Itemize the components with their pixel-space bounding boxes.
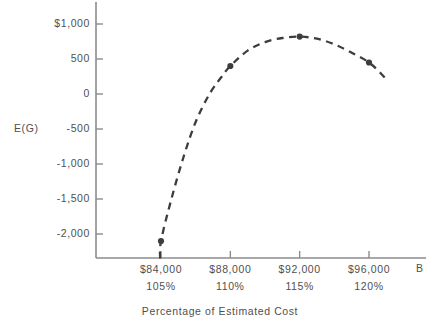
data-curve [160,37,388,259]
data-point-marker [227,63,233,69]
x-axis-title: Percentage of Estimated Cost [0,305,440,317]
axes [96,2,426,258]
x-axis-tick-label-percent: 120% [324,280,414,292]
y-axis-tick-label: $1,000 [20,17,90,29]
y-axis-tick-label: -1,500 [20,192,90,204]
x-axis-end-symbol: B [416,262,424,274]
x-axis-tick-label-amount: $96,000 [324,263,414,275]
y-axis-title: E(G) [14,122,39,134]
y-axis-tick-label: -2,000 [20,227,90,239]
chart-container: $1,0005000-500-1,000-1,500-2,000 $84,000… [0,0,440,330]
curve-line [160,37,388,259]
y-axis-tick-label: 0 [20,87,90,99]
data-points [158,34,372,245]
y-axis-tick-label: 500 [20,52,90,64]
y-axis-tick-label: -1,000 [20,157,90,169]
data-point-marker [297,34,303,40]
data-point-marker [366,59,372,65]
data-point-marker [158,238,164,244]
